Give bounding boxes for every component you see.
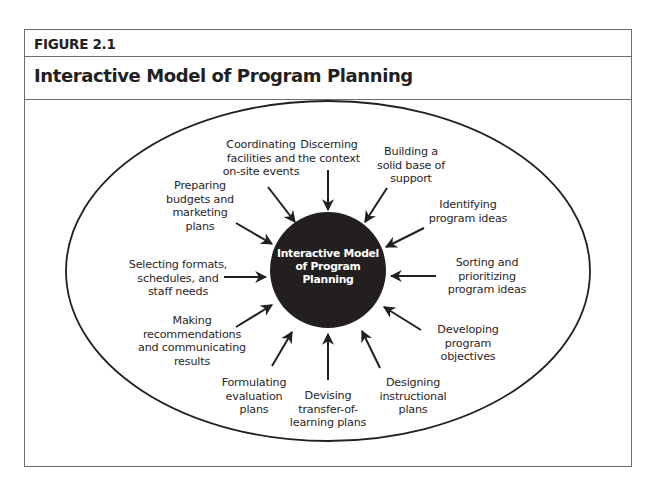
label-designing: Designing instructional plans bbox=[365, 376, 461, 417]
label-making: Making recommendations and communicating… bbox=[136, 314, 248, 368]
arrow-coordinating bbox=[268, 187, 295, 222]
arrow-designing bbox=[362, 331, 380, 368]
arrow-preparing bbox=[236, 223, 272, 244]
arrow-building bbox=[365, 188, 387, 222]
label-formulating: Formulating evaluation plans bbox=[211, 376, 297, 417]
label-coordinating: Coordinating facilities and on-site even… bbox=[215, 138, 307, 179]
label-sorting: Sorting and prioritizing program ideas bbox=[437, 256, 537, 297]
arrow-developing bbox=[384, 307, 421, 330]
arrow-identifying bbox=[386, 228, 424, 247]
label-developing: Developing program objectives bbox=[425, 323, 511, 364]
label-identifying: Identifying program ideas bbox=[418, 198, 518, 225]
label-building: Building a solid base of support bbox=[368, 145, 454, 186]
label-preparing: Preparing budgets and marketing plans bbox=[160, 179, 240, 233]
center-label: Interactive Model of Program Planning bbox=[271, 247, 385, 286]
arrow-formulating bbox=[272, 332, 292, 366]
label-selecting: Selecting formats, schedules, and staff … bbox=[126, 258, 230, 299]
